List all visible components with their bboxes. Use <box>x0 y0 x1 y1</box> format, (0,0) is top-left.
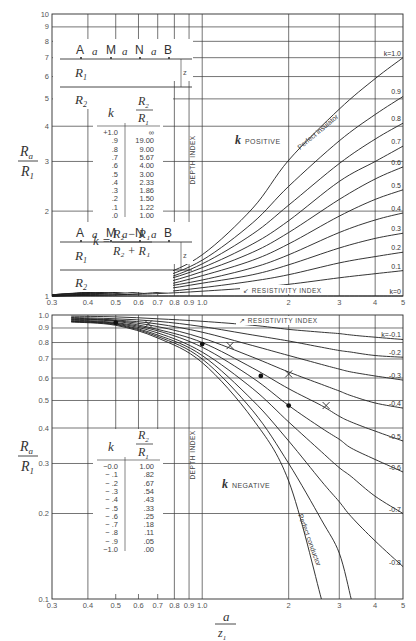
y-tick-label: 10 <box>41 10 49 19</box>
electrode-label: B <box>164 43 172 57</box>
curve-label: 0.2 <box>391 244 401 251</box>
perfect-conductor-label: Perfect conductor <box>297 513 323 568</box>
table-cell-ratio: 1.00 <box>139 211 154 220</box>
formula-numerator: R₂ − R₁ <box>112 227 150 241</box>
resistivity-chart: 0.30.40.50.60.70.80.91.0234512345678910k… <box>0 0 416 641</box>
spacing-label: a <box>151 228 157 240</box>
curve-label: 0.7 <box>391 138 401 145</box>
y-tick-label: 1 <box>45 292 49 301</box>
y-tick-label: 0.8 <box>39 338 49 347</box>
perfect-insulator-label: Perfect insulator <box>296 112 340 150</box>
y-tick-label: 2 <box>45 207 49 216</box>
x-tick-label: 0.6 <box>133 298 143 307</box>
subscript: 2 <box>145 436 149 444</box>
y-tick-label: 0.6 <box>39 374 49 383</box>
curve-line <box>71 319 403 441</box>
electrode-label: N <box>135 43 144 57</box>
subscript: 2 <box>145 102 149 110</box>
spacing-label: a <box>92 45 98 57</box>
y-tick-label: 7 <box>45 53 49 62</box>
y-tick-label: 0.9 <box>39 323 49 332</box>
region-label: NEGATIVE <box>232 482 270 489</box>
y-tick-label: 0.1 <box>39 595 49 604</box>
curve-label: 0.6 <box>391 159 401 166</box>
y-axis-label-numerator: Ra <box>19 144 34 161</box>
y-axis-label-denominator: R1 <box>20 459 34 476</box>
subscript: 1 <box>83 73 87 82</box>
curve-label: k=1.0 <box>384 50 401 57</box>
x-tick-label: 5 <box>401 601 405 610</box>
table-cell-k: −1.0 <box>103 545 118 554</box>
x-tick-label: 2 <box>287 601 291 610</box>
depth-index-label: DEPTH INDEX <box>189 135 196 184</box>
table-cell-ratio: .00 <box>144 545 154 554</box>
x-tick-label: 0.7 <box>152 298 162 307</box>
curve-label: 0.9 <box>391 88 401 95</box>
x-axis-label-denominator: z1 <box>217 626 226 641</box>
x-tick-label: 0.8 <box>169 601 179 610</box>
y-tick-label: 6 <box>45 72 49 81</box>
curve-label: -0.4 <box>389 400 401 407</box>
curve-label: -0.6 <box>389 464 401 471</box>
y-tick-label: 4 <box>45 122 49 131</box>
x-tick-label: 0.4 <box>83 601 93 610</box>
y-tick-label: 0.2 <box>39 509 49 518</box>
x-tick-label: 1.0 <box>197 298 207 307</box>
x-tick-label: 0.5 <box>111 298 121 307</box>
curve-label: k=0 <box>390 288 402 295</box>
x-tick-label: 4 <box>373 298 377 307</box>
curve-label: -0.3 <box>389 372 401 379</box>
x-tick-label: 3 <box>337 601 341 610</box>
x-tick-label: 2 <box>287 298 291 307</box>
spacing-label: a <box>122 45 128 57</box>
formula-lhs: k = <box>93 233 111 248</box>
curve-label: 0.3 <box>391 225 401 232</box>
formula-denominator: R₂ + R₁ <box>112 244 150 258</box>
y-tick-label: 3 <box>45 157 49 166</box>
curve-label: -0.7 <box>389 506 401 513</box>
electrode-label: B <box>164 226 172 240</box>
data-point-dot <box>200 342 205 347</box>
curve-label: 0.8 <box>391 115 401 122</box>
y-tick-label: 0.5 <box>39 396 49 405</box>
electrode-label: A <box>76 43 84 57</box>
subscript: 1 <box>83 256 87 265</box>
data-point-dot <box>113 320 118 325</box>
subscript: a <box>29 151 34 161</box>
curve-label: -0.2 <box>389 349 401 356</box>
x-tick-label: 1.0 <box>197 601 207 610</box>
z1-label: z <box>183 251 187 260</box>
data-point-dot <box>258 374 263 379</box>
resistivity-index-label: ↙ RESISTIVITY INDEX <box>243 287 322 294</box>
x-tick-label: 0.9 <box>184 298 194 307</box>
curve-label: 0.1 <box>391 263 401 270</box>
curve-label: 0.5 <box>391 182 401 189</box>
x-tick-label: 0.9 <box>184 601 194 610</box>
x-tick-label: 0.4 <box>83 298 93 307</box>
y-axis-label-numerator: Ra <box>19 439 34 456</box>
subscript: 2 <box>83 283 87 292</box>
data-point-cross <box>145 320 152 327</box>
y-tick-label: 8 <box>45 37 49 46</box>
region-label: POSITIVE <box>245 138 281 145</box>
inset-mask <box>53 264 173 292</box>
table-header-k: k <box>108 105 114 120</box>
x-tick-label: 0.5 <box>111 601 121 610</box>
x-tick-label: 0.7 <box>152 601 162 610</box>
curve-label: 0.4 <box>391 205 401 212</box>
subscript: 1 <box>223 634 227 641</box>
curve-label: -0.5 <box>389 433 401 440</box>
electrode-label: M <box>106 43 116 57</box>
table-header-k: k <box>108 439 114 454</box>
x-tick-label: 4 <box>373 601 377 610</box>
electrode-label: A <box>76 226 84 240</box>
x-tick-label: 3 <box>337 298 341 307</box>
data-point-dot <box>286 403 291 408</box>
y-tick-label: 9 <box>45 22 49 31</box>
table-cell-k: .0 <box>112 211 118 220</box>
curve-label: k=-0.1 <box>381 331 401 338</box>
x-axis-label-numerator: a <box>223 609 230 624</box>
y-tick-label: 5 <box>45 94 49 103</box>
subscript: 1 <box>30 466 35 476</box>
y-tick-label: 0.3 <box>39 459 49 468</box>
